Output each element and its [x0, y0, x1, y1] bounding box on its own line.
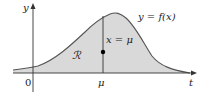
y-axis-label: y [22, 2, 29, 13]
x-axis-arrow-icon [191, 71, 197, 76]
origin-label: 0 [25, 77, 31, 88]
vertical-line-label: x = μ [106, 34, 133, 45]
y-axis-arrow-icon [31, 3, 36, 9]
function-graph: y t 0 μ y = f(x) x = μ ℛ [0, 0, 207, 98]
x-axis-label: t [189, 77, 194, 88]
region-label: ℛ [72, 49, 82, 62]
centroid-point [101, 50, 105, 54]
mu-tick-label: μ [98, 77, 105, 88]
region-r-shading [13, 13, 190, 73]
curve-label: y = f(x) [137, 11, 176, 22]
